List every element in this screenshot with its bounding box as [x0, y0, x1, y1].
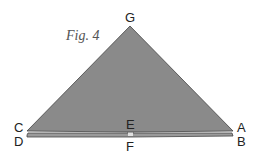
- label-g: G: [125, 11, 135, 24]
- label-c: C: [14, 121, 23, 134]
- label-a: A: [237, 121, 246, 134]
- figure-4-diagram: Fig. 4 G C D E F A B: [0, 0, 256, 160]
- gap-ef: [128, 132, 133, 136]
- label-f: F: [126, 140, 134, 153]
- label-e: E: [126, 118, 135, 131]
- figure-caption: Fig. 4: [66, 29, 99, 43]
- label-b: B: [237, 135, 246, 148]
- label-d: D: [14, 135, 23, 148]
